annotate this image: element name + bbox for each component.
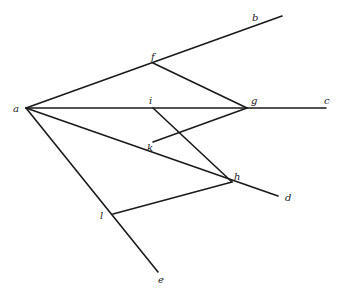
point-label-c: c bbox=[324, 95, 330, 106]
point-label-i: i bbox=[149, 95, 152, 106]
labels-group: abcdefgikhl bbox=[13, 12, 330, 285]
segments-group bbox=[26, 16, 326, 272]
point-label-d: d bbox=[285, 192, 291, 203]
geometry-diagram: abcdefgikhl bbox=[0, 0, 342, 289]
segment-ae bbox=[26, 108, 158, 272]
point-label-k: k bbox=[147, 142, 153, 153]
segment-ih bbox=[153, 108, 232, 182]
segment-fg bbox=[153, 63, 247, 108]
segment-ab bbox=[26, 16, 282, 108]
point-label-l: l bbox=[100, 210, 103, 221]
point-label-f: f bbox=[150, 51, 157, 62]
point-label-h: h bbox=[234, 171, 240, 182]
point-label-g: g bbox=[251, 95, 257, 106]
point-label-a: a bbox=[13, 103, 19, 114]
point-label-e: e bbox=[158, 274, 164, 285]
segment-lh bbox=[113, 182, 232, 214]
segment-kg bbox=[153, 108, 247, 142]
point-label-b: b bbox=[252, 12, 258, 23]
